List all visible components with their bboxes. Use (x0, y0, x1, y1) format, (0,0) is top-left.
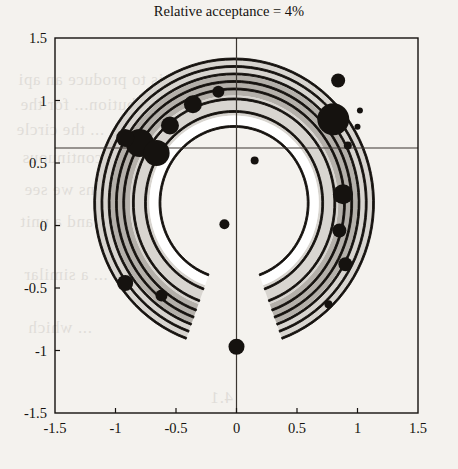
scatter-point (155, 290, 167, 302)
x-tick-label: 0 (233, 420, 240, 436)
scatter-contour-plot: -1.5-1-0.500.511.51.510.50-0.5-1-1.5 (0, 0, 458, 469)
scatter-point (116, 129, 134, 147)
x-tick-label: 0.5 (288, 420, 306, 436)
scatter-point (229, 339, 245, 355)
x-tick-label: -1 (109, 420, 121, 436)
x-tick-label: 1.5 (409, 420, 427, 436)
contour-band (149, 116, 318, 286)
scatter-point (161, 117, 179, 135)
scatter-point (333, 184, 353, 204)
x-tick-label: -0.5 (165, 420, 188, 436)
scatter-point (251, 157, 259, 165)
y-tick-label: -1.5 (24, 405, 47, 421)
y-tick-label: 1.5 (29, 30, 47, 46)
y-tick-label: -0.5 (24, 280, 47, 296)
scatter-point (219, 219, 229, 229)
scatter-point (331, 74, 345, 88)
x-tick-label: 1 (354, 420, 361, 436)
contour-group (94, 58, 375, 339)
scatter-point (184, 95, 202, 113)
y-tick-label: 0.5 (29, 155, 47, 171)
scatter-point (338, 257, 352, 271)
scatter-point (144, 140, 170, 166)
scatter-point (344, 142, 352, 150)
scatter-point (317, 103, 349, 135)
figure-container: ...cem is to produce an apidistribution.… (0, 0, 458, 469)
x-tick-label: -1.5 (44, 420, 67, 436)
scatter-point (355, 124, 361, 130)
y-tick-label: -1 (35, 343, 47, 359)
y-tick-label: 0 (40, 218, 47, 234)
scatter-point (117, 275, 133, 291)
scatter-point (357, 108, 363, 114)
scatter-point (212, 86, 224, 98)
scatter-point (324, 300, 332, 308)
y-tick-label: 1 (40, 93, 47, 109)
scatter-point (332, 224, 346, 238)
